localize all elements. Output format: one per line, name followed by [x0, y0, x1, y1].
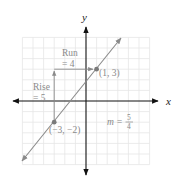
- slope-denominator: 4: [127, 122, 131, 131]
- coordinate-plane: x y (1, 3) (−3, −2) Run = 4 Rise = 5 m =…: [0, 0, 181, 178]
- rise-label: Rise: [33, 82, 50, 92]
- point-label-1-3: (1, 3): [99, 68, 120, 79]
- run-label: Run: [62, 48, 78, 58]
- y-axis-label: y: [81, 11, 87, 23]
- point-neg3-neg2: [52, 120, 57, 125]
- rise-value: = 5: [33, 93, 46, 103]
- slope-label: m = 5 4: [107, 113, 133, 131]
- run-value: = 4: [62, 59, 75, 69]
- slope-numerator: 5: [127, 113, 131, 122]
- x-axis-label: x: [165, 95, 171, 107]
- point-label-neg3-neg2: (−3, −2): [49, 125, 80, 136]
- slope-m-label: m =: [107, 117, 123, 127]
